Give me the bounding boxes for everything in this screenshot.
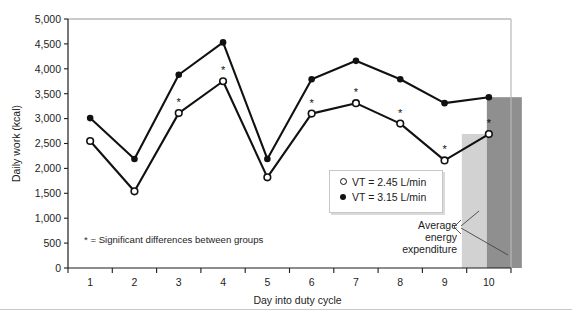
data-point-filled [175, 71, 182, 78]
data-point-open [220, 78, 227, 85]
y-tick-label: 500 [43, 237, 61, 249]
y-tick-label: 4,500 [35, 38, 61, 50]
series-line-1 [90, 42, 489, 159]
data-point-open [441, 157, 448, 164]
data-point-open [87, 138, 94, 145]
figure-container: 05001,0001,5002,0002,5003,0003,5004,0004… [0, 0, 572, 325]
data-point-open [486, 131, 493, 138]
filled-circle-icon [337, 194, 349, 200]
significance-note: * = Significant differences between grou… [84, 234, 263, 245]
y-tick-label: 0 [55, 262, 61, 274]
legend-label-vt-2-45: VT = 2.45 L/min [349, 176, 426, 188]
average-energy-label-line: energy [425, 231, 458, 243]
data-point-open [397, 120, 404, 127]
average-energy-expenditure-high [487, 97, 522, 268]
y-tick-label: 5,000 [35, 13, 61, 25]
data-point-open [175, 110, 182, 117]
average-energy-label-line: Average [418, 219, 457, 231]
x-tick-label: 10 [483, 276, 495, 288]
data-point-filled [353, 58, 360, 65]
x-tick-label: 3 [176, 276, 182, 288]
data-point-open [264, 174, 271, 181]
x-tick-label: 9 [442, 276, 448, 288]
data-point-filled [264, 156, 271, 163]
data-point-filled [441, 100, 448, 107]
data-point-open [308, 110, 315, 117]
y-tick-label: 3,500 [35, 88, 61, 100]
x-tick-label: 2 [132, 276, 138, 288]
chart-legend: VT = 2.45 L/min VT = 3.15 L/min [329, 170, 443, 213]
daily-work-line-chart: 05001,0001,5002,0002,5003,0003,5004,0004… [0, 0, 572, 325]
legend-item-vt-3-15: VT = 3.15 L/min [337, 189, 442, 204]
y-tick-label: 1,500 [35, 187, 61, 199]
y-tick-label: 2,500 [35, 137, 61, 149]
y-tick-label: 2,000 [35, 162, 61, 174]
data-point-filled [308, 76, 315, 83]
open-circle-icon [337, 178, 349, 185]
significance-star: * [177, 96, 182, 108]
x-tick-label: 7 [353, 276, 359, 288]
significance-star: * [442, 143, 447, 155]
x-axis-title: Day into duty cycle [253, 294, 341, 306]
data-point-filled [397, 76, 404, 83]
y-tick-label: 3,000 [35, 112, 61, 124]
data-point-filled [220, 39, 227, 46]
x-tick-label: 4 [220, 276, 226, 288]
significance-star: * [398, 107, 403, 119]
y-tick-label: 4,000 [35, 63, 61, 75]
y-axis-title: Daily work (kcal) [10, 105, 22, 182]
x-tick-label: 1 [87, 276, 93, 288]
significance-star: * [221, 64, 226, 76]
average-energy-expenditure-low [462, 134, 487, 268]
significance-star: * [354, 86, 359, 98]
caption-divider [0, 309, 572, 310]
data-point-open [131, 188, 138, 195]
data-point-filled [486, 94, 493, 101]
legend-item-vt-2-45: VT = 2.45 L/min [337, 174, 442, 189]
legend-label-vt-3-15: VT = 3.15 L/min [349, 191, 426, 203]
significance-star: * [310, 97, 315, 109]
data-point-filled [131, 156, 138, 163]
y-tick-label: 1,000 [35, 212, 61, 224]
data-point-open [353, 100, 360, 107]
x-tick-label: 6 [309, 276, 315, 288]
significance-star: * [487, 117, 492, 129]
x-tick-label: 8 [397, 276, 403, 288]
x-tick-label: 5 [264, 276, 270, 288]
data-point-filled [87, 115, 94, 122]
average-energy-label-line: expenditure [402, 243, 457, 255]
